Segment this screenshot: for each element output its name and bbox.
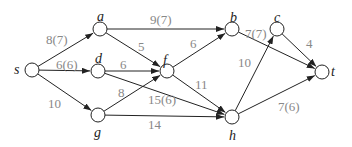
edge-s-g — [38, 74, 92, 111]
edge-a-f — [106, 33, 160, 67]
edge-label-g-h: 14 — [148, 118, 161, 131]
edge-label-s-a: 8(7) — [46, 33, 68, 46]
edge-label-h-t: 7(6) — [278, 100, 300, 113]
edge-label-f-b: 6 — [190, 37, 197, 50]
edge-label-a-f: 5 — [138, 40, 145, 53]
edge-label-d-f: 6 — [120, 58, 127, 71]
edge-label-a-b: 9(7) — [150, 13, 172, 26]
edge-f-b — [173, 33, 225, 67]
node-label-h: h — [229, 129, 236, 143]
diagram-canvas — [0, 0, 352, 147]
edge-label-s-d: 6(6) — [56, 58, 78, 71]
node-a — [93, 22, 107, 36]
node-s — [25, 63, 39, 77]
edge-label-b-t: 7(7) — [245, 27, 267, 40]
node-label-s: s — [14, 63, 19, 77]
node-h — [225, 110, 239, 124]
node-label-g: g — [94, 126, 101, 140]
node-label-b: b — [230, 11, 237, 25]
edge-label-f-h: 11 — [195, 78, 208, 91]
node-label-c: c — [274, 11, 280, 25]
edge-label-s-g: 10 — [48, 97, 61, 110]
edge-g-h — [105, 115, 224, 117]
edge-label-g-f: 8 — [118, 86, 125, 99]
edge-label-d-h: 15(6) — [148, 93, 176, 106]
node-label-a: a — [97, 10, 104, 24]
node-t — [315, 65, 329, 79]
edge-label-h-c: 10 — [238, 56, 251, 69]
node-label-f: f — [163, 54, 167, 68]
node-g — [91, 108, 105, 122]
flow-network-diagram: 8(7)6(6)109(7)5615(6)814611107(7)47(6)sa… — [0, 0, 352, 147]
node-label-d: d — [95, 52, 102, 66]
node-d — [91, 64, 105, 78]
edge-label-c-t: 4 — [306, 37, 313, 50]
node-label-t: t — [331, 65, 335, 79]
